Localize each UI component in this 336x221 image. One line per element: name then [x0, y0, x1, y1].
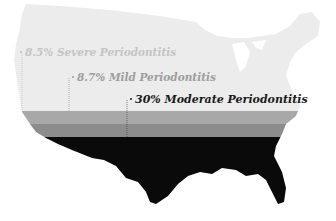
band-severe — [0, 111, 336, 124]
dot-marker-icon — [72, 76, 74, 78]
dot-marker-icon — [20, 51, 22, 53]
band-moderate — [0, 137, 336, 221]
label-moderate-text: 30% Moderate Periodontitis — [135, 93, 308, 106]
label-severe-text: 8.5% Severe Periodontitis — [25, 46, 176, 58]
band-mild — [0, 124, 336, 137]
label-mild-text: 8.7% Mild Periodontitis — [77, 71, 216, 83]
label-mild: 8.7% Mild Periodontitis — [72, 72, 216, 83]
label-severe: 8.5% Severe Periodontitis — [20, 47, 176, 58]
us-map-chart — [0, 0, 336, 221]
dot-marker-icon — [130, 98, 132, 100]
label-moderate: 30% Moderate Periodontitis — [130, 94, 308, 105]
